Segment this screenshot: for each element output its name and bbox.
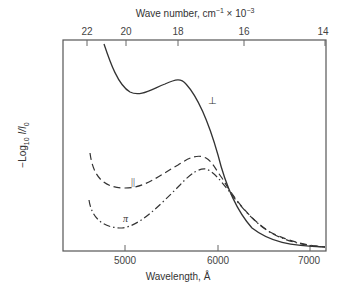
y-axis-title: −Log10 I/I0 xyxy=(17,122,30,167)
curve-perpendicular xyxy=(104,44,325,247)
top-tick-label: 22 xyxy=(81,26,93,37)
curve-label-perpendicular: ⊥ xyxy=(208,95,217,106)
top-axis: 22 20 18 16 14 xyxy=(81,26,329,46)
top-tick-label: 20 xyxy=(120,26,132,37)
absorption-spectrum-chart: Wave number, cm−1 × 10−3 22 20 18 16 14 … xyxy=(0,0,346,289)
bottom-axis-title: Wavelength, Å xyxy=(146,270,211,282)
top-tick-label: 18 xyxy=(172,26,184,37)
bottom-tick-label: 6000 xyxy=(207,255,230,266)
top-tick-label: 16 xyxy=(238,26,250,37)
curve-label-pi: π xyxy=(123,213,129,224)
top-tick-label: 14 xyxy=(317,26,329,37)
bottom-axis: 5000 6000 7000 xyxy=(114,245,321,266)
curve-pi xyxy=(89,169,325,247)
plot-frame xyxy=(63,40,326,251)
top-axis-title: Wave number, cm−1 × 10−3 xyxy=(136,7,255,19)
curve-parallel xyxy=(90,153,325,247)
bottom-tick-label: 7000 xyxy=(298,255,321,266)
bottom-tick-label: 5000 xyxy=(114,255,137,266)
curve-label-parallel: || xyxy=(131,176,135,187)
